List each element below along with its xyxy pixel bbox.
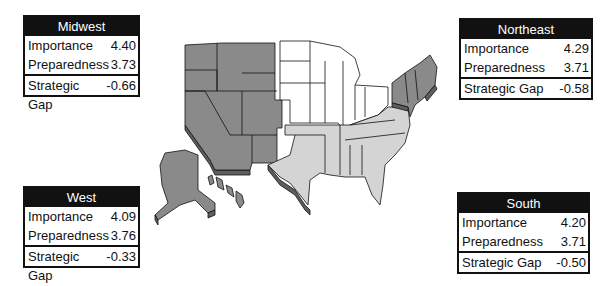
strategic-gap-row: Strategic Gap-0.50: [459, 251, 588, 272]
value: 3.71: [561, 232, 586, 251]
region-title: West: [25, 188, 138, 207]
value: -0.33: [106, 247, 136, 266]
label: Importance: [28, 36, 93, 55]
midwest-stats-box: Midwest Importance4.40 Preparedness3.73 …: [23, 15, 140, 97]
region-title: South: [459, 194, 588, 213]
value: 4.29: [564, 39, 589, 58]
value: -0.58: [559, 79, 589, 98]
value: -0.66: [106, 76, 136, 95]
alaska: [155, 150, 215, 220]
importance-row: Importance4.09: [25, 207, 138, 226]
us-regions-map: [150, 25, 460, 255]
northeast-stats-box: Northeast Importance4.29 Preparedness3.7…: [459, 18, 593, 100]
label: Strategic Gap: [28, 76, 106, 95]
west-stats-box: West Importance4.09 Preparedness3.76 Str…: [23, 186, 140, 268]
strategic-gap-row: Strategic Gap-0.33: [25, 245, 138, 266]
preparedness-row: Preparedness3.71: [461, 58, 591, 77]
label: Preparedness: [28, 226, 109, 245]
label: Importance: [462, 213, 527, 232]
strategic-gap-row: Strategic Gap-0.66: [25, 74, 138, 95]
importance-row: Importance4.29: [461, 39, 591, 58]
value: 3.76: [111, 226, 136, 245]
label: Strategic Gap: [464, 79, 544, 98]
label: Preparedness: [28, 55, 109, 74]
value: 4.40: [111, 36, 136, 55]
importance-row: Importance4.40: [25, 36, 138, 55]
preparedness-row: Preparedness3.73: [25, 55, 138, 74]
value: 4.20: [561, 213, 586, 232]
midwest-region: [280, 41, 388, 129]
label: Strategic Gap: [28, 247, 106, 266]
preparedness-row: Preparedness3.76: [25, 226, 138, 245]
label: Preparedness: [462, 232, 543, 251]
value: 4.09: [111, 207, 136, 226]
label: Strategic Gap: [462, 253, 542, 272]
value: 3.71: [564, 58, 589, 77]
label: Importance: [464, 39, 529, 58]
south-stats-box: South Importance4.20 Preparedness3.71 St…: [457, 192, 590, 274]
region-title: Midwest: [25, 17, 138, 36]
label: Importance: [28, 207, 93, 226]
value: -0.50: [556, 253, 586, 272]
preparedness-row: Preparedness3.71: [459, 232, 588, 251]
label: Preparedness: [464, 58, 545, 77]
region-title: Northeast: [461, 20, 591, 39]
value: 3.73: [111, 55, 136, 74]
strategic-gap-row: Strategic Gap-0.58: [461, 77, 591, 98]
importance-row: Importance4.20: [459, 213, 588, 232]
